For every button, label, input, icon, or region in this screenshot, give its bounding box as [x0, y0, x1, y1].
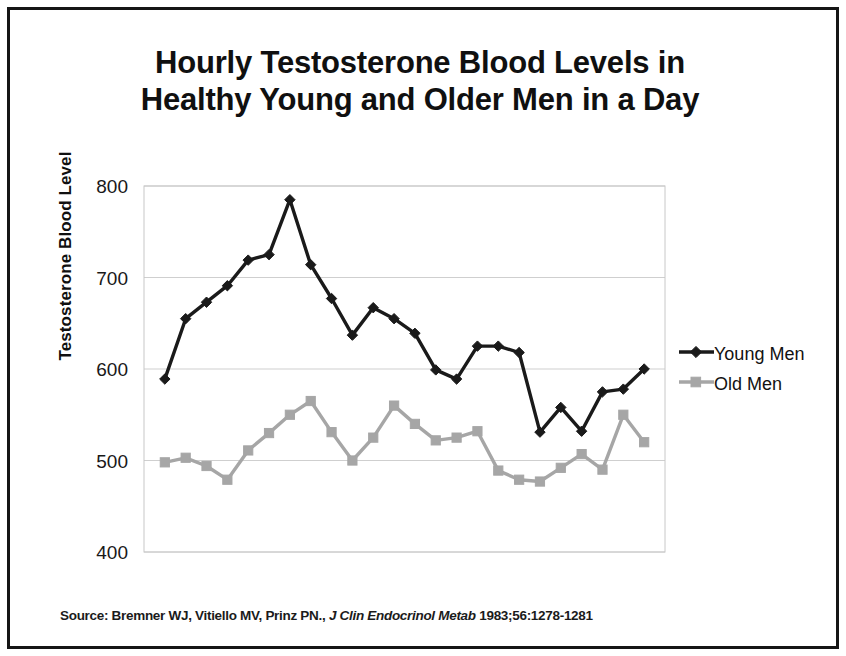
data-point-marker — [431, 436, 440, 445]
data-point-marker — [452, 433, 461, 442]
y-tick-labels: 400500600700800 — [96, 176, 128, 563]
data-point-marker — [535, 477, 544, 486]
data-point-marker — [410, 419, 419, 428]
data-point-marker — [223, 475, 232, 484]
data-point-marker — [514, 347, 524, 357]
source-reference: 1983;56:1278-1281 — [479, 608, 593, 623]
data-point-marker — [202, 461, 211, 470]
data-point-marker — [640, 438, 649, 447]
data-point-marker — [619, 410, 628, 419]
data-point-marker — [389, 401, 398, 410]
data-point-marker — [577, 449, 586, 458]
source-journal: J Clin Endocrinol Metab — [329, 608, 476, 623]
data-point-marker — [494, 466, 503, 475]
data-point-marker — [493, 341, 503, 351]
screenshot-root: Hourly Testosterone Blood Levels in Heal… — [0, 0, 846, 656]
data-point-marker — [160, 374, 170, 384]
legend-marker — [691, 377, 701, 387]
data-point-marker — [369, 433, 378, 442]
data-point-marker — [285, 410, 294, 419]
legend-item-young-men: Young Men — [714, 344, 804, 365]
data-point-marker — [515, 475, 524, 484]
data-series-group — [160, 195, 650, 487]
y-tick-label: 600 — [96, 359, 128, 380]
y-tick-label: 800 — [96, 176, 128, 197]
data-point-marker — [473, 427, 482, 436]
series-line — [165, 401, 644, 482]
data-point-marker — [306, 396, 315, 405]
data-point-marker — [556, 463, 565, 472]
source-citation: Source: Bremner WJ, Vitiello MV, Prinz P… — [60, 608, 800, 623]
legend-item-old-men: Old Men — [714, 374, 782, 395]
series-old-men — [160, 396, 649, 486]
line-chart-svg: 400500600700800 — [0, 0, 846, 656]
legend-marker — [690, 346, 701, 357]
data-point-marker — [160, 458, 169, 467]
data-point-marker — [264, 428, 273, 437]
y-tick-label: 700 — [96, 268, 128, 289]
series-young-men — [160, 195, 650, 438]
legend-markers — [679, 346, 714, 386]
data-point-marker — [285, 195, 295, 205]
data-point-marker — [327, 428, 336, 437]
data-point-marker — [244, 446, 253, 455]
series-line — [165, 200, 644, 432]
data-point-marker — [264, 249, 274, 259]
gridlines — [144, 186, 665, 552]
data-point-marker — [348, 456, 357, 465]
y-tick-label: 500 — [96, 451, 128, 472]
y-tick-label: 400 — [96, 542, 128, 563]
data-point-marker — [598, 465, 607, 474]
source-prefix: Source: Bremner WJ, Vitiello MV, Prinz P… — [60, 608, 325, 623]
data-point-marker — [181, 453, 190, 462]
plot-area: 400500600700800 Young Men Old Men — [0, 0, 846, 656]
